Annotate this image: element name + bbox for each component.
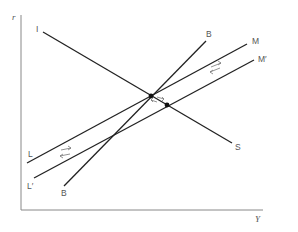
lm-prime-curve-end-label: M′ <box>258 54 267 64</box>
initial-equilibrium-point <box>149 94 154 99</box>
shift-arrows-left-icon <box>60 146 71 158</box>
x-axis-label: Y <box>255 214 261 224</box>
lm-curve-start-label: L <box>28 149 33 159</box>
lm-prime-curve-start-label: L′ <box>27 181 34 191</box>
lm-curve <box>27 44 247 163</box>
lm-curve-end-label: M <box>252 36 259 46</box>
bb-curve-bottom-label: B <box>61 188 67 198</box>
lm-prime-curve <box>34 60 254 178</box>
bb-curve <box>64 41 206 186</box>
new-equilibrium-point <box>165 103 170 108</box>
is-curve-end-label: S <box>235 142 241 152</box>
is-curve-start-label: I <box>36 24 38 34</box>
y-axis-label: r <box>12 12 16 22</box>
is-lm-bp-diagram: r Y I S B B L M L′ M′ <box>0 0 298 232</box>
bb-curve-top-label: B <box>206 29 212 39</box>
